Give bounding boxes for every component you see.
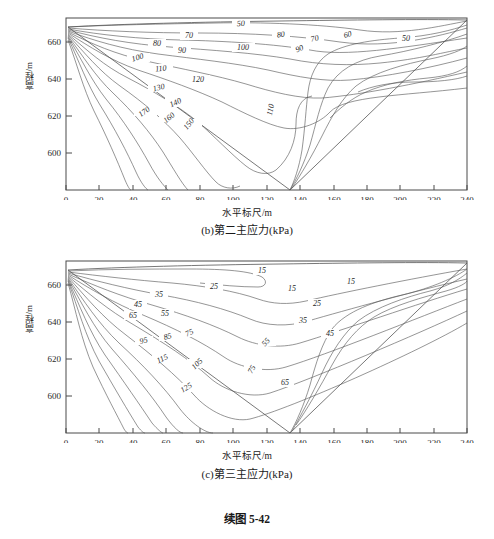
svg-text:600: 600 <box>48 148 62 158</box>
svg-text:240: 240 <box>460 438 474 443</box>
svg-text:120: 120 <box>260 438 274 443</box>
svg-text:220: 220 <box>427 195 441 200</box>
contour-plot-b: 660 640 620 600 <box>0 0 494 200</box>
svg-text:35: 35 <box>298 316 307 325</box>
figure-caption: 续图 5-42 <box>0 510 494 526</box>
svg-text:160: 160 <box>162 111 177 126</box>
contour-lines-c <box>68 269 467 433</box>
subcaption-c: (c)第三主应力(kPa) <box>0 465 494 481</box>
svg-text:100: 100 <box>226 195 240 200</box>
x-axis-label-b: 水平标尺/m <box>0 205 494 219</box>
svg-text:220: 220 <box>427 438 441 443</box>
svg-text:160: 160 <box>327 438 341 443</box>
svg-text:660: 660 <box>48 37 62 47</box>
svg-text:600: 600 <box>48 391 62 401</box>
x-ticks-c: 0 20 40 60 80 100 120 140 160 180 200 22… <box>64 428 475 443</box>
svg-text:25: 25 <box>210 282 218 291</box>
svg-text:660: 660 <box>48 280 62 290</box>
svg-text:20: 20 <box>95 438 105 443</box>
svg-text:180: 180 <box>360 438 374 443</box>
svg-text:35: 35 <box>154 290 163 299</box>
panel-c: 高程/m 660 640 620 600 <box>0 243 494 498</box>
contour-labels-c: 15 15 15 25 25 35 35 45 45 55 55 65 65 7… <box>124 266 360 395</box>
contour-svg-c: 660 640 620 600 <box>0 243 494 443</box>
svg-text:80: 80 <box>196 195 206 200</box>
contour-svg-b: 660 640 620 600 <box>0 0 494 200</box>
svg-text:80: 80 <box>276 30 285 40</box>
subcaption-b: (b)第二主应力(kPa) <box>0 221 494 237</box>
svg-text:620: 620 <box>48 354 62 364</box>
svg-text:120: 120 <box>260 195 274 200</box>
svg-text:45: 45 <box>326 329 334 338</box>
y-ticks-c: 660 640 620 600 <box>48 280 73 401</box>
svg-text:50: 50 <box>402 34 410 43</box>
svg-text:140: 140 <box>293 438 307 443</box>
svg-text:180: 180 <box>360 195 374 200</box>
svg-text:200: 200 <box>393 438 407 443</box>
svg-text:90: 90 <box>178 46 186 55</box>
contour-plot-c: 660 640 620 600 <box>0 243 494 443</box>
svg-text:160: 160 <box>327 195 341 200</box>
svg-text:80: 80 <box>153 39 161 48</box>
x-axis-label-c: 水平标尺/m <box>0 448 494 462</box>
y-ticks-b: 660 640 620 600 <box>48 37 73 158</box>
svg-text:0: 0 <box>64 438 69 443</box>
panel-b: 高程/m 660 640 620 600 <box>0 0 494 245</box>
svg-text:50: 50 <box>237 19 246 29</box>
svg-text:240: 240 <box>460 195 474 200</box>
svg-text:65: 65 <box>129 311 137 320</box>
svg-text:80: 80 <box>196 438 206 443</box>
svg-text:15: 15 <box>288 284 296 293</box>
svg-text:40: 40 <box>129 438 139 443</box>
svg-text:65: 65 <box>281 378 289 387</box>
svg-text:100: 100 <box>226 438 240 443</box>
svg-text:640: 640 <box>48 317 62 327</box>
svg-text:15: 15 <box>347 277 355 286</box>
svg-text:110: 110 <box>155 63 167 73</box>
contour-labels-b: 50 50 60 70 70 80 80 90 90 100 100 110 1… <box>127 19 415 132</box>
svg-text:60: 60 <box>162 195 172 200</box>
svg-text:170: 170 <box>137 105 152 119</box>
svg-text:200: 200 <box>393 195 407 200</box>
svg-text:20: 20 <box>95 195 105 200</box>
svg-text:70: 70 <box>185 31 193 40</box>
svg-text:105: 105 <box>190 357 205 372</box>
svg-text:620: 620 <box>48 111 62 121</box>
svg-text:55: 55 <box>161 309 169 318</box>
svg-text:640: 640 <box>48 74 62 84</box>
svg-text:110: 110 <box>265 103 276 116</box>
svg-text:45: 45 <box>134 300 142 309</box>
svg-text:120: 120 <box>192 75 204 84</box>
svg-text:40: 40 <box>129 195 139 200</box>
svg-text:15: 15 <box>258 266 266 275</box>
svg-text:25: 25 <box>313 299 321 308</box>
svg-text:60: 60 <box>162 438 172 443</box>
svg-text:140: 140 <box>293 195 307 200</box>
svg-text:0: 0 <box>64 195 69 200</box>
svg-text:100: 100 <box>237 43 249 52</box>
figure-container: 高程/m 660 640 620 600 <box>0 0 494 539</box>
x-ticks-b: 0 20 40 60 80 100 120 140 160 180 200 22… <box>64 185 475 200</box>
